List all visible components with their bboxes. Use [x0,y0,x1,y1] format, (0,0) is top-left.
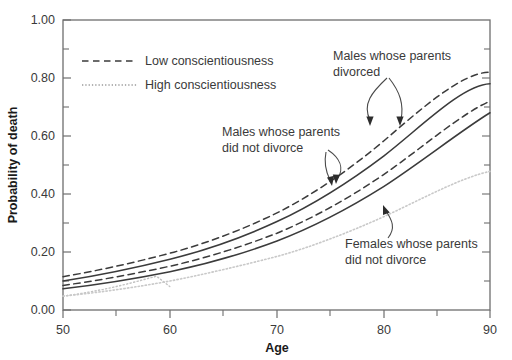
y-tick-label-2: 0.40 [31,187,55,201]
x-axis-major-ticks [63,310,490,318]
annotation-females-not-divorced-line2: did not divorce [345,253,426,267]
x-tick-label-4: 90 [483,323,497,337]
y-tick-label-4: 0.80 [31,71,55,85]
x-tick-label-1: 60 [163,323,177,337]
annotation-males-not-divorced-line2: did not divorce [222,141,303,155]
probability-of-death-chart: 0.00 0.20 0.40 0.60 0.80 1.00 50 60 70 8… [0,0,512,360]
y-tick-label-3: 0.60 [31,129,55,143]
x-tick-label-2: 70 [270,323,284,337]
legend-label-low: Low conscientiousness [145,54,274,68]
y-axis-title: Probability of death [6,107,20,224]
annotation-males-divorced-line1: Males whose parents [333,49,451,63]
annotation-males-not-divorced-line1: Males whose parents [222,125,340,139]
x-tick-label-3: 80 [377,323,391,337]
annotation-females-not-divorced-line1: Females whose parents [345,237,478,251]
y-tick-label-0: 0.00 [31,303,55,317]
y-tick-label-5: 1.00 [31,13,55,27]
y-tick-label-1: 0.20 [31,245,55,259]
x-tick-label-0: 50 [56,323,70,337]
annotation-males-divorced-line2: divorced [333,65,380,79]
legend-label-high: High conscientiousness [145,78,276,92]
x-axis-title: Age [265,341,289,355]
chart-figure: 0.00 0.20 0.40 0.60 0.80 1.00 50 60 70 8… [0,0,512,360]
